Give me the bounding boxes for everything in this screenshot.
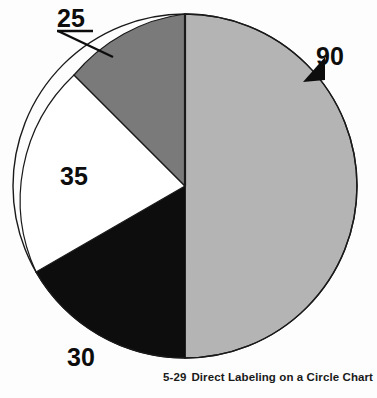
- slice-label-30: 30: [67, 343, 95, 372]
- slice-label-35: 35: [60, 162, 88, 191]
- slice-label-90: 90: [316, 42, 344, 71]
- figure-caption: 5-29Direct Labeling on a Circle Chart: [163, 371, 373, 383]
- label-25-leader-line: [58, 31, 113, 57]
- caption-text: Direct Labeling on a Circle Chart: [191, 371, 373, 383]
- circle-chart-figure: 90 25 35 30 5-29Direct Labeling on a Cir…: [0, 0, 377, 398]
- caption-number: 5-29: [163, 371, 186, 383]
- slice-label-25: 25: [57, 4, 85, 33]
